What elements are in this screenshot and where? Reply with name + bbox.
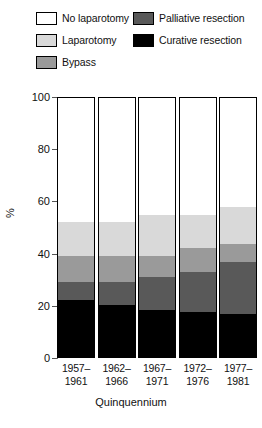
bar-segment-palliative-resection[interactable] xyxy=(99,282,135,305)
bar-segment-laparotomy[interactable] xyxy=(139,215,175,256)
bar-segment-bypass[interactable] xyxy=(139,256,175,277)
bar-4[interactable] xyxy=(179,97,217,358)
x-tick-label-3: 1967–1971 xyxy=(135,362,179,387)
bar-segment-bypass[interactable] xyxy=(180,248,216,271)
bar-segment-palliative-resection[interactable] xyxy=(220,262,256,314)
bar-1[interactable] xyxy=(57,97,95,358)
x-tick-label-line: 1977– xyxy=(216,362,260,375)
bar-segment-bypass[interactable] xyxy=(58,256,94,282)
y-tick-label-20: 20 xyxy=(38,300,50,311)
bar-segment-curative-resection[interactable] xyxy=(180,312,216,357)
bar-segment-curative-resection[interactable] xyxy=(99,305,135,357)
x-tick-label-line: 1976 xyxy=(176,375,220,388)
bar-segment-no-laparotomy[interactable] xyxy=(58,98,94,222)
x-tick-label-line: 1967– xyxy=(135,362,179,375)
bar-segment-laparotomy[interactable] xyxy=(58,222,94,256)
stacked-bar-chart: % 020406080100 1957–19611962–19661967–19… xyxy=(0,0,262,428)
bar-segment-laparotomy[interactable] xyxy=(220,207,256,245)
bar-segment-curative-resection[interactable] xyxy=(139,310,175,357)
bar-segment-bypass[interactable] xyxy=(220,244,256,262)
bar-group xyxy=(57,97,262,358)
bar-segment-bypass[interactable] xyxy=(99,256,135,282)
bar-segment-no-laparotomy[interactable] xyxy=(220,98,256,207)
bar-segment-no-laparotomy[interactable] xyxy=(139,98,175,215)
bar-segment-laparotomy[interactable] xyxy=(180,215,216,249)
bar-segment-curative-resection[interactable] xyxy=(220,314,256,357)
bar-segment-curative-resection[interactable] xyxy=(58,300,94,357)
x-tick-label-line: 1957– xyxy=(54,362,98,375)
bar-3[interactable] xyxy=(138,97,176,358)
x-tick-label-line: 1972– xyxy=(176,362,220,375)
x-tick-label-line: 1981 xyxy=(216,375,260,388)
x-axis-title: Quinquennium xyxy=(0,396,262,408)
x-tick-label-4: 1972–1976 xyxy=(176,362,220,387)
bar-5[interactable] xyxy=(219,97,257,358)
y-axis-ticks: 020406080100 xyxy=(0,0,58,428)
x-tick-label-line: 1962– xyxy=(95,362,139,375)
x-axis-tick-labels: 1957–19611962–19661967–19711972–19761977… xyxy=(57,362,262,396)
y-tick-label-60: 60 xyxy=(38,196,50,207)
bar-segment-laparotomy[interactable] xyxy=(99,222,135,256)
bar-segment-palliative-resection[interactable] xyxy=(139,277,175,311)
x-tick-label-line: 1966 xyxy=(95,375,139,388)
bar-2[interactable] xyxy=(98,97,136,358)
bar-segment-palliative-resection[interactable] xyxy=(58,282,94,300)
bar-segment-palliative-resection[interactable] xyxy=(180,272,216,312)
x-tick-label-1: 1957–1961 xyxy=(54,362,98,387)
y-tick-label-100: 100 xyxy=(32,92,50,103)
x-tick-label-line: 1961 xyxy=(54,375,98,388)
x-tick-label-2: 1962–1966 xyxy=(95,362,139,387)
y-tick-label-0: 0 xyxy=(44,353,50,364)
y-tick-label-80: 80 xyxy=(38,144,50,155)
bar-segment-no-laparotomy[interactable] xyxy=(99,98,135,222)
bar-segment-no-laparotomy[interactable] xyxy=(180,98,216,215)
x-tick-label-5: 1977–1981 xyxy=(216,362,260,387)
y-tick-label-40: 40 xyxy=(38,248,50,259)
x-tick-label-line: 1971 xyxy=(135,375,179,388)
